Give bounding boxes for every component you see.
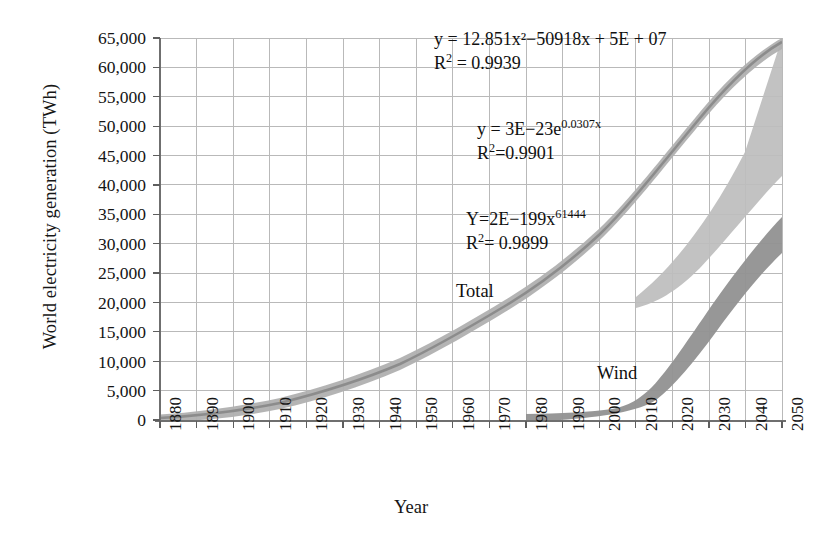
- equation-total-exponential-r2: R2=0.9901: [477, 142, 601, 166]
- x-tick-label-1990: 1990: [553, 429, 573, 499]
- x-tick-label-2000: 2000: [589, 429, 609, 499]
- x-tick-label-1940: 1940: [370, 429, 390, 499]
- x-tick-label-1880: 1880: [150, 429, 170, 499]
- x-axis-title: Year: [0, 497, 822, 518]
- equation-total-quadratic-r2: R2 = 0.9939: [434, 52, 667, 76]
- equation-wind-power-r2: R2= 0.9899: [466, 232, 586, 256]
- x-tick-label-1890: 1890: [187, 429, 207, 499]
- x-tick-label-1980: 1980: [516, 429, 536, 499]
- x-tick-label-2030: 2030: [699, 429, 719, 499]
- x-tick-label-1960: 1960: [443, 429, 463, 499]
- x-tick-label-1970: 1970: [479, 429, 499, 499]
- equation-total-quadratic-formula: y = 12.851x²−50918x + 5E + 07: [434, 28, 667, 52]
- chart-figure: World electricity generation (TWh) 65,00…: [0, 0, 822, 535]
- x-tick-label-1930: 1930: [333, 429, 353, 499]
- x-tick-label-2040: 2040: [736, 429, 756, 499]
- equation-total-quadratic: y = 12.851x²−50918x + 5E + 07 R2 = 0.993…: [434, 28, 667, 76]
- equation-wind-power: Y=2E−199x61444 R2= 0.9899: [466, 208, 586, 256]
- x-tick-label-2050: 2050: [772, 429, 792, 499]
- equation-total-exponential: y = 3E−23e0.0307x R2=0.9901: [477, 118, 601, 166]
- curve-label-total: Total: [456, 281, 494, 302]
- x-tick-label-2020: 2020: [662, 429, 682, 499]
- y-tick-marks: [153, 38, 160, 420]
- equation-wind-power-formula: Y=2E−199x61444: [466, 208, 586, 232]
- x-tick-label-1910: 1910: [260, 429, 280, 499]
- x-tick-label-1950: 1950: [406, 429, 426, 499]
- equation-total-exponential-formula: y = 3E−23e0.0307x: [477, 118, 601, 142]
- x-tick-label-1920: 1920: [296, 429, 316, 499]
- x-tick-label-1900: 1900: [223, 429, 243, 499]
- x-tick-label-2010: 2010: [626, 429, 646, 499]
- curve-label-wind: Wind: [597, 363, 637, 384]
